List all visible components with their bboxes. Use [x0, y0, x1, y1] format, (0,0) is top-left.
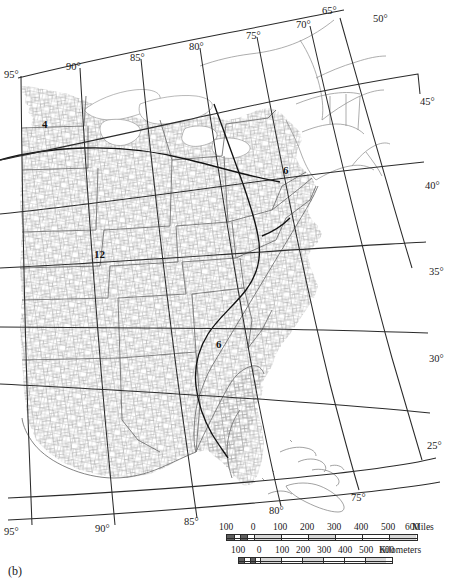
scale-bar-kilometers: 100 0 100 200 300 400 500 600 Kilometers — [232, 545, 432, 564]
miles-tick-200: 200 — [300, 522, 314, 532]
miles-tick-100: 100 — [273, 522, 287, 532]
lat-label-25: 25° — [427, 441, 442, 452]
km-unit-label: Kilometers — [379, 545, 421, 555]
km-tick-100: 100 — [275, 545, 289, 555]
km-tick-0: 0 — [257, 545, 262, 555]
scale-bar-miles: 100 0 100 200 300 400 500 600 Miles — [220, 522, 420, 541]
miles-tick-500: 500 — [381, 522, 395, 532]
km-tick-200: 200 — [296, 545, 310, 555]
parallel-30 — [0, 327, 428, 333]
miles-tick-300: 300 — [327, 522, 341, 532]
miles-tick-0: 0 — [251, 522, 256, 532]
parallel-35 — [0, 242, 426, 268]
lat-label-45: 45° — [420, 97, 435, 108]
lon-label-top-80: 80° — [189, 42, 204, 53]
contour-label-6-south: 6 — [216, 338, 222, 350]
meridian-65 — [340, 18, 412, 268]
lon-label-top-65: 65° — [322, 6, 337, 17]
lon-label-bottom-90: 90° — [95, 524, 110, 535]
parallel-south-edge — [8, 458, 436, 498]
lon-label-top-70: 70° — [296, 20, 311, 31]
parallel-frame-edge — [8, 482, 440, 520]
lon-label-top-95: 95° — [4, 70, 19, 81]
meridian-80 — [200, 48, 281, 506]
km-tick-minus100: 100 — [231, 545, 245, 555]
miles-bar — [226, 534, 418, 541]
lon-label-bottom-75: 75° — [351, 493, 366, 504]
km-bar — [238, 557, 393, 564]
lat-label-35: 35° — [429, 267, 444, 278]
lon-label-bottom-95: 95° — [4, 527, 19, 538]
figure-caption: (b) — [8, 564, 22, 579]
parallels — [0, 10, 440, 520]
parallel-40 — [0, 162, 424, 214]
lon-label-bottom-85: 85° — [184, 517, 199, 528]
lon-label-top-75: 75° — [246, 31, 261, 42]
contour-label-12: 12 — [94, 248, 105, 260]
miles-unit-label: Miles — [412, 522, 434, 532]
graticule-layer — [0, 0, 465, 586]
map-figure: 95° 90° 85° 80° 75° 70° 65° 50° 45° 40° … — [0, 0, 465, 586]
parallel-25 — [0, 384, 430, 413]
miles-tick-400: 400 — [354, 522, 368, 532]
km-tick-300: 300 — [317, 545, 331, 555]
contour-label-4: 4 — [42, 118, 48, 130]
lon-label-bottom-80: 80° — [269, 506, 284, 517]
lon-label-top-90: 90° — [66, 62, 81, 73]
meridian-95 — [21, 76, 32, 525]
km-tick-500: 500 — [359, 545, 373, 555]
lat-label-40: 40° — [425, 181, 440, 192]
contour-label-6-north: 6 — [283, 164, 289, 176]
lat-label-50: 50° — [373, 14, 388, 25]
lon-label-top-85: 85° — [130, 53, 145, 64]
lat-label-30: 30° — [429, 354, 444, 365]
km-tick-400: 400 — [338, 545, 352, 555]
meridians — [21, 18, 422, 525]
meridian-75 — [257, 37, 359, 490]
miles-tick-minus100: 100 — [219, 522, 233, 532]
